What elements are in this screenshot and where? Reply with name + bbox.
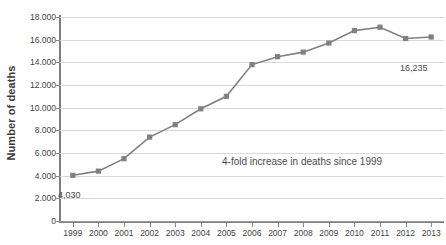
- x-tick-label: 2008: [294, 228, 313, 238]
- x-tick-mark: [431, 223, 432, 227]
- x-tick-label: 2004: [191, 228, 210, 238]
- first-point-value-label: 4,030: [58, 190, 81, 200]
- data-point-marker: [275, 54, 280, 59]
- x-tick-mark: [252, 223, 253, 227]
- x-tick-label: 2013: [422, 228, 441, 238]
- y-tick-label: 2.000: [16, 193, 56, 203]
- x-tick-label: 2006: [243, 228, 262, 238]
- x-tick-label: 2009: [319, 228, 338, 238]
- y-axis-tick-labels: 02.0004.0006.0008.00010.00012.00014.0001…: [16, 0, 56, 245]
- y-tick-mark: [55, 17, 60, 18]
- data-point-marker: [121, 156, 126, 161]
- data-point-marker: [147, 135, 152, 140]
- y-tick-mark: [55, 62, 60, 63]
- y-tick-mark: [55, 40, 60, 41]
- x-tick-label: 2010: [345, 228, 364, 238]
- data-point-marker: [403, 36, 408, 41]
- x-tick-label: 2005: [217, 228, 236, 238]
- y-tick-label: 4.000: [16, 171, 56, 181]
- y-tick-mark: [55, 85, 60, 86]
- x-tick-mark: [354, 223, 355, 227]
- x-tick-label: 2007: [268, 228, 287, 238]
- x-tick-label: 2003: [166, 228, 185, 238]
- data-point-marker: [429, 34, 434, 39]
- y-tick-label: 0: [16, 216, 56, 226]
- x-tick-label: 1999: [63, 228, 82, 238]
- x-tick-mark: [406, 223, 407, 227]
- y-tick-mark: [55, 153, 60, 154]
- data-point-marker: [198, 106, 203, 111]
- y-tick-label: 10.000: [16, 103, 56, 113]
- x-tick-mark: [226, 223, 227, 227]
- x-tick-mark: [73, 223, 74, 227]
- data-point-marker: [326, 40, 331, 45]
- data-point-marker: [96, 169, 101, 174]
- data-point-marker: [173, 122, 178, 127]
- y-tick-label: 16.000: [16, 35, 56, 45]
- y-tick-mark: [55, 130, 60, 131]
- x-tick-mark: [175, 223, 176, 227]
- y-tick-label: 18.000: [16, 12, 56, 22]
- y-tick-label: 6.000: [16, 148, 56, 158]
- last-point-value-label: 16,235: [400, 63, 428, 73]
- data-series: [60, 17, 444, 221]
- x-axis-tick-labels: 1999200020012002200320042005200620072008…: [60, 228, 444, 242]
- y-tick-mark: [55, 198, 60, 199]
- x-tick-mark: [150, 223, 151, 227]
- x-tick-mark: [380, 223, 381, 227]
- x-tick-mark: [278, 223, 279, 227]
- data-point-marker: [377, 25, 382, 30]
- y-tick-label: 12.000: [16, 80, 56, 90]
- x-tick-mark: [303, 223, 304, 227]
- data-point-marker: [224, 94, 229, 99]
- y-tick-mark: [55, 176, 60, 177]
- series-line: [73, 27, 431, 175]
- y-tick-label: 8.000: [16, 125, 56, 135]
- y-tick-label: 14.000: [16, 57, 56, 67]
- y-tick-mark: [55, 108, 60, 109]
- x-tick-mark: [98, 223, 99, 227]
- x-tick-mark: [124, 223, 125, 227]
- x-tick-mark: [329, 223, 330, 227]
- x-tick-label: 2002: [140, 228, 159, 238]
- x-tick-mark: [201, 223, 202, 227]
- x-tick-label: 2001: [115, 228, 134, 238]
- x-tick-label: 2000: [89, 228, 108, 238]
- y-tick-mark: [55, 221, 60, 222]
- x-tick-label: 2011: [371, 228, 389, 238]
- data-point-marker: [301, 50, 306, 55]
- gridline: [60, 221, 444, 222]
- data-point-marker: [249, 62, 254, 67]
- data-point-marker: [70, 173, 75, 178]
- chart-screenshot: Number of deaths 02.0004.0006.0008.00010…: [0, 0, 446, 245]
- chart-annotation: 4-fold increase in deaths since 1999: [222, 156, 382, 167]
- data-point-marker: [352, 28, 357, 33]
- x-tick-label: 2012: [396, 228, 415, 238]
- plot-area: [60, 17, 444, 221]
